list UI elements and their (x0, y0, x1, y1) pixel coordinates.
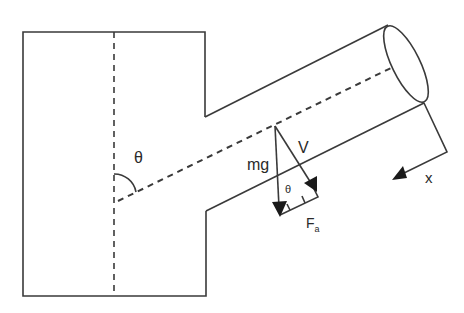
diagram-svg (0, 0, 464, 313)
v-label: V (298, 140, 309, 156)
x-arrowhead-icon (392, 166, 407, 180)
fa-label: Fa (306, 216, 320, 234)
branch-pipe-lower-wall (206, 103, 424, 211)
pipe-end-ellipse (375, 20, 437, 108)
theta-main-label: θ (134, 150, 143, 166)
branch-pipe-upper-wall (205, 25, 388, 117)
mg-arrow (275, 126, 279, 207)
fa-main: F (306, 215, 315, 231)
x-axis-arrow (400, 103, 447, 175)
mg-label: mg (247, 157, 269, 173)
theta-small-label: θ (285, 184, 291, 195)
angle-arc-theta (114, 174, 136, 192)
mg-arrowhead-icon (272, 201, 287, 217)
diagram-canvas: θ mg V θ Fa x (0, 0, 464, 313)
fa-sub: a (315, 224, 320, 234)
branch-centerline (118, 67, 393, 201)
x-label: x (425, 170, 433, 185)
v-arrowhead-icon (304, 176, 317, 192)
